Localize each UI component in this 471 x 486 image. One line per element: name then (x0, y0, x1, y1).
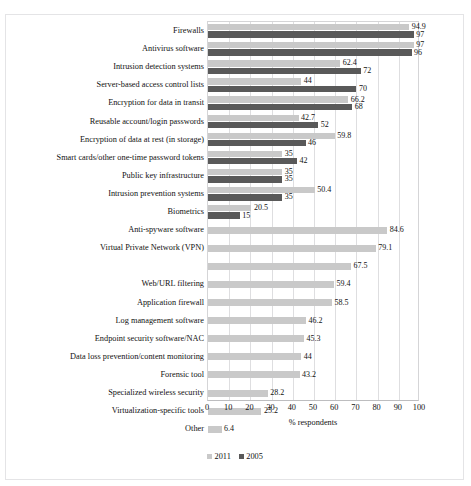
category-label: Intrusion prevention systems (108, 190, 204, 198)
category-label: Antivirus software (142, 45, 204, 53)
bar-value-label: 42.7 (301, 114, 315, 122)
chart-row: Encryption for data in transit66.268 (208, 94, 418, 112)
bar-value-label: 58.5 (335, 299, 349, 307)
bar-value-label: 42 (300, 157, 308, 165)
bar-2011: 35 (208, 169, 282, 175)
chart-row: Firewalls94.997 (208, 22, 418, 40)
chart-row: Specialized wireless security28.2 (208, 384, 418, 402)
bar-2011: 79.1 (208, 245, 376, 252)
x-tick-label: 0 (205, 404, 209, 412)
category-label: Data loss prevention/content monitoring (70, 353, 204, 361)
category-label: Other (185, 425, 204, 433)
bar-value-label: 72 (363, 67, 371, 75)
bar-value-label: 68 (355, 103, 363, 111)
chart-row: Reusable account/login passwords42.752 (208, 113, 418, 131)
bar-value-label: 59.4 (336, 280, 350, 288)
bar-2005: 35 (208, 176, 282, 182)
legend-label: 2005 (246, 452, 263, 461)
bar-2011: 35 (208, 151, 282, 157)
legend-label: 2011 (215, 452, 231, 461)
category-label: Virtual Private Network (VPN) (100, 244, 204, 252)
x-tick-label: 70 (351, 404, 359, 412)
bar-value-label: 44 (304, 77, 312, 85)
bar-2011: 94.9 (208, 24, 409, 30)
bar-2005: 15 (208, 212, 240, 218)
x-axis-ticks: 0102030405060708090100 (207, 404, 419, 416)
chart-row: Intrusion detection systems62.472 (208, 58, 418, 76)
bar-value-label: 52 (321, 121, 329, 129)
bar-value-label: 35 (285, 175, 293, 183)
x-tick-label: 10 (224, 404, 232, 412)
category-label: Anti-spyware software (128, 226, 204, 234)
bar-2005: 42 (208, 158, 297, 164)
legend-swatch-2011 (207, 454, 212, 459)
bar-value-label: 46.2 (308, 317, 322, 325)
bar-2011: 84.6 (208, 227, 387, 234)
bar-2005: 52 (208, 122, 318, 128)
category-label: Application firewall (137, 298, 204, 306)
bar-2005: 97 (208, 31, 414, 37)
bar-value-label: 84.6 (390, 226, 404, 234)
bar-2011: 46.2 (208, 317, 306, 324)
bar-2011: 58.5 (208, 299, 332, 306)
x-tick-label: 40 (288, 404, 296, 412)
bar-2011: 62.4 (208, 60, 340, 66)
category-label: Endpoint security software/NAC (95, 335, 204, 343)
x-tick-label: 20 (245, 404, 253, 412)
bar-2011: 28.2 (208, 390, 268, 397)
bar-value-label: 62.4 (343, 59, 357, 67)
x-tick-label: 60 (330, 404, 338, 412)
bar-2005: 72 (208, 68, 361, 74)
bar-2011: 44 (208, 353, 301, 360)
legend-item: 2011 (207, 452, 231, 461)
category-label: Forensic tool (160, 371, 204, 379)
chart-row: Endpoint security software/NAC45.3 (208, 330, 418, 348)
chart-row: Virtual Private Network (VPN)79.1 (208, 239, 418, 257)
bar-value-label: 70 (359, 85, 367, 93)
x-tick-label: 80 (372, 404, 380, 412)
category-label: Smart cards/other one-time password toke… (57, 154, 204, 162)
chart-row: Forensic tool43.2 (208, 366, 418, 384)
chart-row: Log management software46.2 (208, 312, 418, 330)
legend-item: 2005 (239, 452, 263, 461)
x-tick-label: 50 (309, 404, 317, 412)
chart-row: Data loss prevention/content monitoring4… (208, 348, 418, 366)
bar-2011: 59.4 (208, 281, 334, 288)
x-axis-label: % respondents (207, 418, 419, 427)
chart-row: Biometrics20.515 (208, 203, 418, 221)
bar-2011: 45.3 (208, 335, 304, 342)
bar-value-label: 97 (416, 31, 424, 39)
bar-2011: 50.4 (208, 187, 315, 193)
bar-value-label: 46 (308, 139, 316, 147)
bar-2005: 35 (208, 194, 282, 200)
chart-row: Smart cards/other one-time password toke… (208, 149, 418, 167)
bar-value-label: 59.8 (337, 132, 351, 140)
bar-value-label: 15 (242, 212, 250, 220)
category-label: Firewalls (173, 27, 204, 35)
bar-value-label: 43.2 (302, 371, 316, 379)
category-label: Intrusion detection systems (113, 63, 204, 71)
bar-value-label: 79.1 (378, 244, 392, 252)
bar-2005: 96 (208, 49, 412, 55)
bar-2011: 44 (208, 78, 301, 84)
chart-row: Public key infrastructure3535 (208, 167, 418, 185)
chart-row: Encryption of data at rest (in storage)5… (208, 131, 418, 149)
chart-row: Web/URL filtering59.4 (208, 275, 418, 293)
bar-2011: 67.5 (208, 263, 351, 270)
legend-swatch-2005 (239, 454, 244, 459)
bar-2011: 97 (208, 42, 414, 48)
category-label: Biometrics (168, 208, 204, 216)
bar-value-label: 67.5 (354, 262, 368, 270)
chart-row: Server-based access control lists4470 (208, 76, 418, 94)
category-label: Server-based access control lists (97, 81, 204, 89)
chart-legend: 20112005 (207, 452, 419, 461)
category-label: Virtualization-specific tools (112, 407, 204, 415)
chart-row: 67.5 (208, 257, 418, 275)
bar-value-label: 28.2 (270, 389, 284, 397)
bar-2011: 42.7 (208, 115, 299, 121)
bar-2011: 66.2 (208, 96, 348, 102)
x-tick-label: 100 (413, 404, 425, 412)
figure-frame: Firewalls94.997Antivirus software9796Int… (5, 14, 464, 480)
chart-row: Antivirus software9796 (208, 40, 418, 58)
category-label: Public key infrastructure (122, 172, 204, 180)
